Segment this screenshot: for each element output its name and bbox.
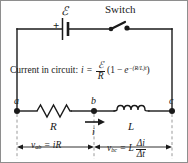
- vab-subscript: ab: [35, 144, 41, 150]
- current-equation-equals: =: [87, 66, 92, 76]
- vab-equation: v ab = iR: [31, 141, 61, 151]
- current-arrow-label: i: [92, 127, 95, 137]
- vbc-equation: v bc = L Δi Δt: [107, 139, 147, 159]
- resistor-symbol: [37, 105, 72, 117]
- switch-symbol[interactable]: [109, 22, 130, 31]
- vbc-inductance: L: [129, 144, 134, 154]
- circuit-diagram-svg: [1, 1, 188, 163]
- fraction-denominator-r: R: [97, 72, 105, 82]
- switch-contact-dot: [124, 25, 129, 30]
- inductor-symbol: [114, 106, 149, 112]
- paren-close: ): [147, 66, 150, 76]
- vab-rhs: iR: [53, 141, 61, 151]
- battery-symbol: [63, 18, 69, 40]
- node-label-c: c: [169, 96, 173, 106]
- switch-lever: [111, 22, 125, 29]
- resistor-label: R: [50, 121, 57, 132]
- battery-plus-label: +: [53, 20, 59, 31]
- current-equation: Current in circuit: i = ℰ R (1 − e −(R/L…: [10, 61, 150, 81]
- current-equation-caption: Current in circuit:: [10, 66, 78, 76]
- vab-arrowhead-left: [17, 144, 23, 149]
- node-label-a: a: [14, 96, 19, 106]
- node-dot-a: [14, 108, 20, 114]
- vab-equals: =: [44, 141, 49, 151]
- emf-label: ℰ: [61, 5, 68, 17]
- fraction-numerator-emf: ℰ: [97, 61, 105, 71]
- vab-arrowhead-right: [88, 144, 94, 149]
- paren-open: (1: [107, 66, 115, 76]
- vbc-subscript: bc: [111, 147, 117, 153]
- exponential-power: −(R/L)t: [129, 66, 147, 72]
- equation-minus: −: [117, 66, 122, 76]
- di-numerator: Δi: [136, 139, 146, 149]
- dt-denominator: Δt: [136, 150, 146, 160]
- di-dt-fraction: Δi Δt: [136, 139, 146, 159]
- node-label-b: b: [91, 96, 96, 106]
- inductor-label: L: [128, 121, 134, 132]
- switch-pivot-dot: [109, 27, 114, 32]
- vbc-equals: =: [120, 144, 125, 154]
- node-dot-b: [91, 108, 97, 114]
- vbc-arrowhead-left: [94, 144, 100, 149]
- switch-label: Switch: [105, 4, 136, 15]
- node-dot-c: [169, 108, 175, 114]
- vbc-arrowhead-right: [166, 144, 172, 149]
- emf-over-r-fraction: ℰ R: [96, 61, 105, 81]
- current-arrow-head: [98, 118, 105, 125]
- current-equation-lhs: i: [81, 66, 84, 76]
- rl-circuit-figure: ℰ + Switch a b c R L i Current in circui…: [0, 0, 188, 163]
- current-direction-arrow: [85, 118, 105, 125]
